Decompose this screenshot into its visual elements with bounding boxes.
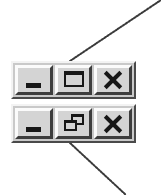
restore-callout-line (70, 143, 126, 195)
close-icon (104, 114, 123, 133)
minimize-icon (26, 83, 41, 88)
restore-button[interactable] (55, 108, 93, 139)
maximize-icon (64, 71, 84, 87)
close-button[interactable] (94, 108, 132, 139)
maximized-window-controls (11, 104, 136, 143)
close-button[interactable] (94, 65, 132, 95)
maximize-callout-line (70, 0, 161, 61)
minimize-button[interactable] (15, 65, 53, 95)
restore-icon (64, 114, 84, 131)
maximize-button[interactable] (55, 65, 93, 95)
restored-window-controls (11, 61, 136, 99)
minimize-icon (26, 127, 41, 132)
minimize-button[interactable] (15, 108, 53, 139)
figure-canvas (0, 0, 161, 195)
restore-icon-front-rect (64, 120, 77, 131)
close-icon (104, 70, 123, 89)
